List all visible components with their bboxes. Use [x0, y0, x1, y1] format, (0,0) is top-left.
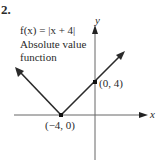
left-branch [20, 72, 61, 115]
graph [0, 0, 158, 168]
point-vertex [59, 113, 63, 117]
vertex-label: (−4, 0) [45, 119, 75, 131]
x-axis-arrow-icon [139, 112, 148, 118]
y-axis-arrow-icon [92, 25, 98, 34]
x-axis-label: x [150, 108, 155, 120]
point-y-intercept [93, 80, 97, 84]
y-axis-label: y [95, 14, 100, 26]
intercept-label: (0, 4) [99, 77, 123, 89]
